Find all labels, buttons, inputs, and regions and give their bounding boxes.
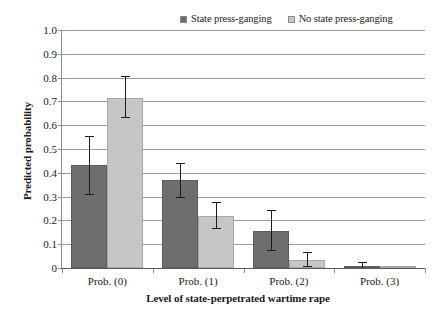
legend-swatch-icon-series-1: [288, 16, 295, 23]
error-cap-upper-series-0-category-2: [267, 210, 276, 211]
y-axis-tick-label: 1.0: [43, 24, 57, 36]
error-bar-series-1-category-2: [307, 252, 308, 266]
y-axis-tick-label: 0.8: [43, 72, 57, 84]
plot-area: 1.00.90.80.70.60.50.40.30.20.10 Prob. (0…: [62, 30, 425, 268]
error-bar-series-0-category-2: [271, 210, 272, 250]
x-axis-title: Level of state-perpetrated wartime rape: [48, 292, 428, 304]
y-axis-tick-label: 0.1: [43, 238, 57, 250]
error-cap-lower-series-1-category-2: [303, 266, 312, 267]
error-cap-upper-series-0-category-1: [176, 163, 185, 164]
y-axis-tick-label: 0.4: [43, 167, 57, 179]
error-cap-lower-series-1-category-1: [212, 228, 221, 229]
error-cap-lower-series-0-category-0: [85, 194, 94, 195]
error-cap-lower-series-0-category-1: [176, 197, 185, 198]
chart-figure: State press-ganging No state press-gangi…: [0, 0, 438, 326]
y-axis-tick-label: 0.6: [43, 119, 57, 131]
legend-swatch-icon-series-0: [180, 16, 187, 23]
x-axis-label-category-0: Prob. (0): [88, 275, 127, 287]
x-axis-line: [61, 268, 425, 269]
y-axis-tick-label: 0.7: [43, 95, 57, 107]
bar-series-1-category-0: [107, 98, 143, 268]
y-axis-tick-label: 0.9: [43, 48, 57, 60]
chart-legend: State press-ganging No state press-gangi…: [180, 10, 435, 28]
legend-entry-state-press-ganging: State press-ganging: [180, 13, 272, 25]
legend-label-series-1: No state press-ganging: [299, 13, 393, 25]
y-axis-tick-label: 0.3: [43, 191, 57, 203]
legend-label-series-0: State press-ganging: [191, 13, 272, 25]
error-cap-upper-series-1-category-2: [303, 252, 312, 253]
error-bar-series-0-category-0: [89, 136, 90, 194]
error-bar-series-1-category-0: [125, 76, 126, 117]
error-cap-lower-series-1-category-0: [121, 117, 130, 118]
error-cap-lower-series-0-category-2: [267, 250, 276, 251]
x-axis-tick-mark: [425, 268, 426, 273]
x-axis-label-category-2: Prob. (2): [269, 275, 308, 287]
x-axis-label-category-3: Prob. (3): [360, 275, 399, 287]
bars-layer: [62, 30, 425, 268]
y-axis-tick-label: 0.2: [43, 214, 57, 226]
y-axis-tick-label: 0.5: [43, 143, 57, 155]
legend-entry-no-state-press-ganging: No state press-ganging: [288, 13, 393, 25]
x-axis-label-category-1: Prob. (1): [179, 275, 218, 287]
error-cap-upper-series-1-category-1: [212, 202, 221, 203]
error-bar-series-0-category-1: [180, 163, 181, 197]
y-axis-tick-label: 0: [52, 262, 58, 274]
error-cap-upper-series-0-category-0: [85, 136, 94, 137]
y-axis-title: Predicted probability: [21, 41, 33, 261]
error-cap-upper-series-0-category-3: [358, 262, 367, 263]
error-bar-series-1-category-1: [216, 202, 217, 228]
error-cap-upper-series-1-category-0: [121, 76, 130, 77]
